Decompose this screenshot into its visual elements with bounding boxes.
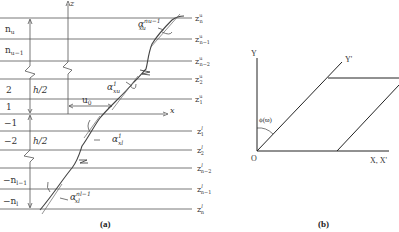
parallelogram-right-edge	[337, 85, 399, 151]
leader-line	[126, 82, 132, 86]
interface-label: zu2	[195, 73, 203, 85]
y-prime-axis-label: Y'	[345, 55, 353, 64]
interface-label: zl1	[197, 125, 204, 137]
half-thickness-label: h/2	[33, 85, 48, 95]
break-symbol-icon	[63, 62, 72, 74]
tangent-line	[84, 116, 100, 138]
leader-line	[60, 198, 68, 200]
x-axis-label: x	[170, 106, 175, 115]
layer-label: 2	[6, 85, 12, 95]
layer-label: −2	[4, 136, 17, 146]
panel-a	[0, 1, 192, 214]
y-axis-label: Y	[251, 49, 257, 58]
panel-a-labels: z x nu nu−1 2 1 −1 −2 −nl−1 −nl h/2 h/2 …	[3, 0, 211, 229]
offset-label: u0	[82, 95, 92, 106]
break-symbol-icon	[24, 150, 34, 162]
half-thickness-label: h/2	[33, 136, 48, 146]
panel-b-labels: Y Y' O X, X' ϕ(ϖ) (b)	[251, 49, 388, 229]
origin-label: O	[251, 154, 257, 163]
y-prime-axis-line	[257, 62, 342, 151]
angle-label: ϕ(ϖ)	[259, 116, 273, 124]
angle-label: α1xl	[112, 132, 123, 146]
layer-label: −nl−1	[3, 175, 27, 186]
interface-label: zun−2	[195, 55, 210, 67]
layer-label: −nl	[3, 196, 18, 207]
break-symbol-icon	[25, 66, 35, 78]
tangent-line	[42, 184, 62, 214]
angle-arc-icon	[47, 182, 50, 192]
caption-a: (a)	[100, 219, 111, 229]
angle-arc-icon	[162, 32, 172, 34]
laminate-diagram: z x nu nu−1 2 1 −1 −2 −nl−1 −nl h/2 h/2 …	[0, 0, 399, 232]
interface-label: zln−2	[197, 162, 211, 174]
layer-label: 1	[6, 102, 12, 112]
x-axis-label: X, X'	[370, 156, 388, 165]
layer-label: −1	[4, 118, 17, 128]
interface-label: zln	[197, 203, 205, 215]
layer-label: nu	[5, 24, 15, 35]
interface-label: zun−1	[195, 33, 210, 45]
caption-b: (b)	[318, 219, 329, 229]
angle-arc-icon	[257, 128, 273, 134]
interface-label: zln−1	[197, 183, 211, 195]
interface-label: zu1	[195, 93, 203, 105]
panel-b	[257, 58, 399, 151]
interface-label: zun	[195, 12, 203, 24]
interface-label: zl2	[197, 144, 204, 156]
deformation-curve	[40, 16, 184, 210]
angle-label: αnu−1xu	[138, 17, 161, 31]
break-symbol-icon	[79, 160, 88, 163]
angle-label: αnl−1xl	[70, 190, 91, 204]
angle-label: α1xu	[107, 80, 120, 94]
layer-label: nu−1	[5, 45, 24, 56]
z-axis-label: z	[69, 0, 75, 8]
